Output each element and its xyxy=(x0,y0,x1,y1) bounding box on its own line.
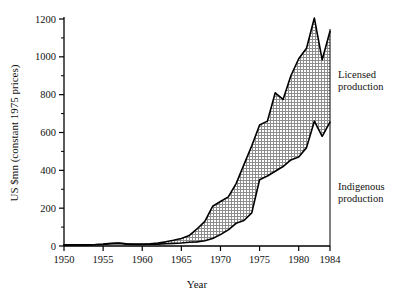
legend-licensed-line1: Licensed xyxy=(338,69,377,80)
legend-indigenous-line1: Indigenous xyxy=(338,181,385,192)
y-tick-label: 0 xyxy=(51,241,56,252)
y-tick-label: 1200 xyxy=(35,14,56,25)
x-tick-label: 1980 xyxy=(288,254,309,265)
x-tick-label: 1984 xyxy=(320,254,342,265)
legend-indigenous-line2: production xyxy=(338,193,384,204)
y-tick-label: 1000 xyxy=(35,51,56,62)
x-tick-label: 1955 xyxy=(93,254,114,265)
x-tick-label: 1970 xyxy=(210,254,231,265)
x-tick-label: 1965 xyxy=(171,254,192,265)
y-tick-label: 800 xyxy=(40,89,56,100)
y-tick-label: 400 xyxy=(40,165,56,176)
y-tick-label: 600 xyxy=(40,127,56,138)
chart-figure: 0200400600800100012001950195519601965197… xyxy=(0,0,398,294)
y-tick-label: 200 xyxy=(40,203,56,214)
y-axis-title: US $mn (constant 1975 prices) xyxy=(8,64,21,201)
x-tick-label: 1950 xyxy=(54,254,75,265)
production-area-chart: 0200400600800100012001950195519601965197… xyxy=(0,0,398,294)
chart-background xyxy=(0,0,398,294)
x-tick-label: 1960 xyxy=(132,254,153,265)
x-axis-title: Year xyxy=(187,278,208,290)
legend-indigenous: Indigenous production xyxy=(338,181,385,204)
legend-licensed-line2: production xyxy=(338,81,384,92)
x-tick-label: 1975 xyxy=(249,254,270,265)
